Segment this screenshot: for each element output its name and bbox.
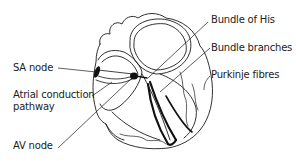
atrial-pathway-line-2 <box>98 76 133 79</box>
bundle-branch-lower-right <box>166 96 192 132</box>
septum-wall <box>142 74 170 140</box>
atrial-pathway-line-1 <box>98 70 133 74</box>
bundle-branches-right <box>148 84 168 144</box>
label-purkinje-fibres: Purkinje fibres <box>211 69 279 81</box>
leader-atrial-conduction <box>92 82 112 96</box>
label-atrial-conduction-line1: Atrial conduction <box>13 89 94 101</box>
lv-inner-wall <box>160 74 196 138</box>
leader-sa-node <box>58 68 96 72</box>
leader-purkinje-fibres <box>204 76 210 90</box>
label-atrial-conduction-line2: pathway <box>13 101 55 113</box>
rv-inner-wall <box>112 112 160 140</box>
label-bundle-branches: Bundle branches <box>211 42 292 54</box>
aorta-inner <box>134 24 186 70</box>
label-sa-node: SA node <box>13 62 53 74</box>
purkinje-fibres-left <box>180 72 188 126</box>
heart-conduction-diagram: SA node Atrial conduction pathway AV nod… <box>0 0 296 161</box>
bundle-branch-bottom <box>168 140 176 145</box>
purkinje-fibres-bottom <box>120 134 166 144</box>
heart-outer-outline <box>93 14 213 149</box>
label-av-node: AV node <box>13 140 53 152</box>
label-bundle-of-his: Bundle of His <box>211 14 275 26</box>
